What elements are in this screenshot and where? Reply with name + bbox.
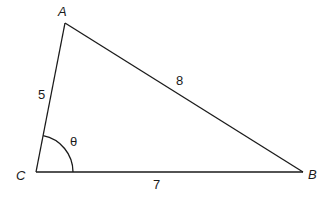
vertex-label-a: A: [57, 4, 67, 19]
side-ab: [65, 23, 303, 172]
angle-arc-theta: [43, 136, 73, 172]
vertex-label-b: B: [308, 167, 317, 182]
side-label-ca: 5: [38, 87, 45, 102]
triangle-diagram: A C B 5 8 7 θ: [0, 0, 332, 200]
side-label-ab: 8: [176, 73, 183, 88]
side-label-cb: 7: [153, 177, 160, 192]
vertex-label-c: C: [16, 168, 26, 183]
angle-label-theta: θ: [70, 134, 77, 149]
